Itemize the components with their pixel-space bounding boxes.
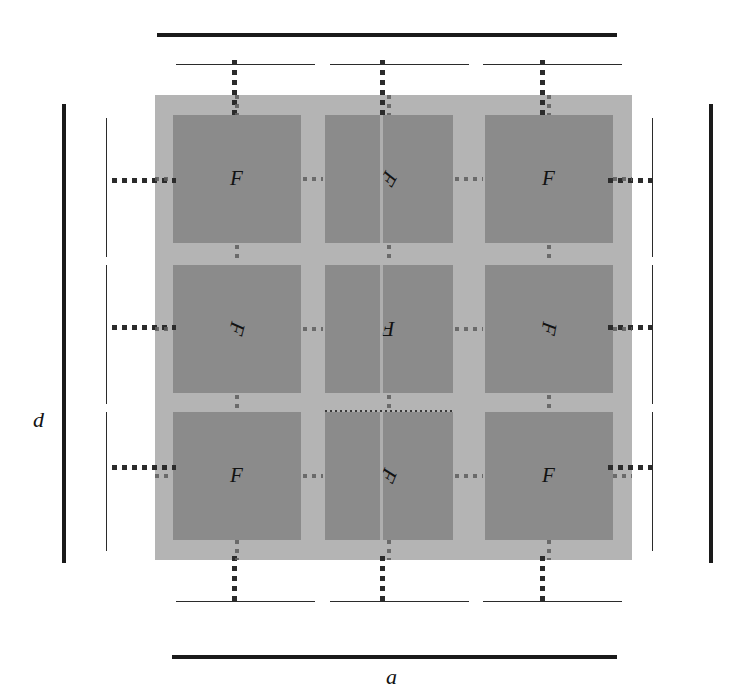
dimension-drawing-figure: FFFFFFFFF d a: [0, 0, 733, 692]
plate-left-h-leader-2: [155, 327, 173, 331]
middle-column-seam-2: [380, 265, 383, 393]
cell-label-r2c2: F: [382, 318, 395, 339]
interior-v-leader-c1-top: [235, 95, 239, 115]
interior-v-leader-c3-b: [547, 395, 551, 410]
interior-v-leader-c2-bot: [387, 540, 391, 560]
left-witness-line-3: [106, 412, 107, 551]
top-witness-line-2: [330, 64, 469, 65]
interior-v-leader-c3-top: [547, 95, 551, 115]
interior-h-leader-r2-a: [303, 327, 323, 331]
height-dimension-label: d: [33, 409, 44, 431]
top-leader-3: [540, 60, 545, 120]
top-witness-line-3: [483, 64, 622, 65]
interior-v-leader-c3-a: [547, 245, 551, 263]
top-witness-line-1: [176, 64, 315, 65]
right-leader-3: [608, 465, 656, 470]
interior-h-leader-r3-b: [455, 474, 483, 478]
plate-left-h-leader-1: [155, 177, 173, 181]
middle-column-seam-1: [380, 115, 383, 243]
left-leader-3: [112, 465, 176, 470]
plate-right-h-leader-1: [613, 177, 632, 181]
interior-v-leader-c1-b: [235, 395, 239, 410]
right-witness-line-1: [652, 118, 653, 257]
cell-label-r1c3: F: [542, 168, 555, 189]
right-witness-line-3: [652, 412, 653, 551]
interior-h-leader-r1-b: [455, 177, 483, 181]
interior-v-leader-c2-top: [387, 95, 391, 115]
cell-label-r3c3: F: [542, 465, 555, 486]
top-leader-2: [380, 60, 385, 120]
middle-column-seam-3: [380, 412, 383, 540]
left-witness-line-1: [106, 118, 107, 257]
interior-h-leader-r3-a: [303, 474, 323, 478]
bottom-leader-3: [540, 556, 545, 606]
bottom-middle-cell-dotted-edge: [325, 410, 453, 412]
top-overall-dimension-rule: [157, 33, 617, 37]
right-witness-line-2: [652, 265, 653, 404]
interior-v-leader-c1-bot: [235, 540, 239, 560]
interior-v-leader-c2-a: [387, 245, 391, 263]
left-overall-dimension-rule: [62, 104, 66, 563]
plate-right-h-leader-3: [613, 474, 632, 478]
interior-h-leader-r2-b: [455, 327, 483, 331]
bottom-overall-dimension-rule: [172, 655, 617, 659]
bottom-leader-1: [232, 556, 237, 606]
bottom-witness-line-1: [176, 601, 315, 602]
right-overall-dimension-rule: [709, 104, 713, 563]
width-dimension-label: a: [386, 666, 397, 688]
plate-right-h-leader-2: [613, 327, 632, 331]
bottom-leader-2: [380, 556, 385, 606]
interior-v-leader-c1-a: [235, 245, 239, 263]
bottom-witness-line-3: [483, 601, 622, 602]
plate-left-h-leader-3: [155, 474, 173, 478]
bottom-witness-line-2: [330, 601, 469, 602]
interior-h-leader-r1-a: [303, 177, 323, 181]
interior-v-leader-c3-bot: [547, 540, 551, 560]
cell-label-r1c1: F: [230, 168, 243, 189]
left-witness-line-2: [106, 265, 107, 404]
cell-label-r3c1: F: [230, 465, 243, 486]
interior-v-leader-c2-b: [387, 395, 391, 410]
